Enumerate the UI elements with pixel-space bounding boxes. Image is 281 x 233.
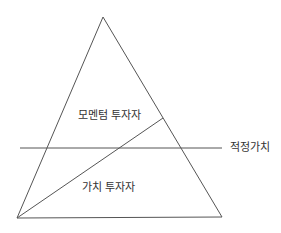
momentum-investor-label: 모멘텀 투자자 bbox=[78, 110, 142, 121]
investor-triangle-diagram: 모멘텀 투자자 가치 투자자 적정가치 bbox=[0, 0, 281, 233]
fair-value-label: 적정가치 bbox=[230, 142, 270, 153]
value-investor-label: 가치 투자자 bbox=[82, 182, 136, 193]
